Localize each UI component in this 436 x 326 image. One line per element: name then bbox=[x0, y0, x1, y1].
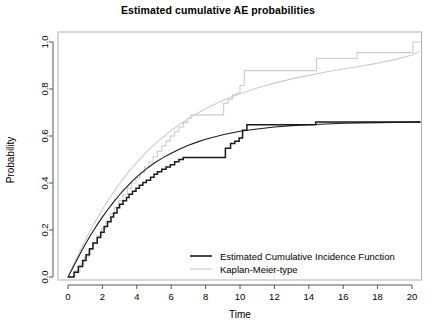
x-tick-label: 8 bbox=[203, 291, 208, 302]
y-tick-label: 0.8 bbox=[39, 82, 50, 95]
x-tick-label: 18 bbox=[372, 291, 383, 302]
x-axis: 02468101214161820 bbox=[65, 285, 417, 302]
y-tick-label: 1.0 bbox=[39, 35, 50, 48]
legend-label: Kaplan-Meier-type bbox=[220, 264, 298, 275]
chart-legend: Estimated Cumulative Incidence FunctionK… bbox=[190, 251, 395, 275]
x-tick-label: 14 bbox=[304, 291, 315, 302]
y-tick-label: 0.0 bbox=[39, 270, 50, 283]
legend-label: Estimated Cumulative Incidence Function bbox=[220, 251, 395, 262]
y-tick-label: 0.6 bbox=[39, 129, 50, 142]
cumulative-ae-probability-chart: 02468101214161820 0.00.20.40.60.81.0 Est… bbox=[0, 0, 436, 326]
x-axis-label: Time bbox=[229, 309, 251, 320]
x-tick-label: 6 bbox=[169, 291, 174, 302]
chart-page: Estimated cumulative AE probabilities 02… bbox=[0, 0, 436, 326]
y-tick-label: 0.2 bbox=[39, 223, 50, 236]
y-axis-label: Probability bbox=[5, 137, 16, 184]
plot-border bbox=[58, 32, 422, 280]
x-tick-label: 12 bbox=[269, 291, 280, 302]
y-axis: 0.00.20.40.60.81.0 bbox=[39, 35, 53, 283]
plot-frame bbox=[58, 32, 422, 280]
x-tick-label: 4 bbox=[134, 291, 139, 302]
series-step-line bbox=[68, 42, 422, 277]
series-kaplan-meier bbox=[68, 42, 422, 277]
x-tick-label: 16 bbox=[338, 291, 349, 302]
y-tick-label: 0.4 bbox=[39, 176, 50, 189]
x-tick-label: 2 bbox=[100, 291, 105, 302]
data-series bbox=[68, 42, 422, 277]
x-tick-label: 20 bbox=[407, 291, 418, 302]
x-tick-label: 0 bbox=[65, 291, 70, 302]
x-tick-label: 10 bbox=[235, 291, 246, 302]
